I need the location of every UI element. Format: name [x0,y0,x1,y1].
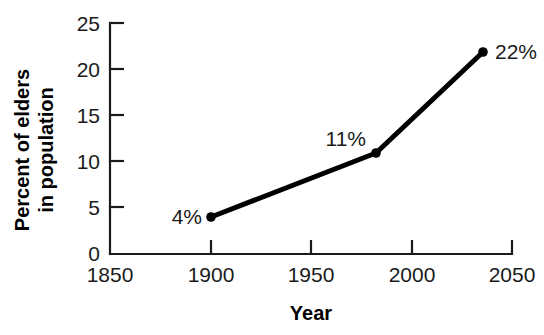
x-tick-label-2050: 2050 [489,263,536,286]
y-tick-label-5: 5 [88,196,100,219]
data-point-1900 [206,212,216,222]
y-tick-label-15: 15 [77,104,100,127]
data-label-11-percent: 11% [326,127,366,150]
x-tick-label-2000: 2000 [389,263,436,286]
x-axis-title: Year [290,302,332,324]
y-tick-label-20: 20 [77,58,100,81]
x-tick-label-1900: 1900 [188,263,235,286]
y-tick-label-25: 25 [77,12,100,35]
data-label-22-percent: 22% [495,40,537,63]
x-tick-label-1950: 1950 [288,263,335,286]
y-tick-label-0: 0 [88,242,100,265]
y-axis-title-line1: Percent of elders [11,69,33,231]
chart-figure: Percent of elders in population 25 20 15… [0,0,544,335]
data-point-2035 [478,47,488,57]
y-tick-label-10: 10 [77,150,100,173]
data-label-4-percent: 4% [172,205,202,228]
data-point-1982 [371,148,381,158]
x-tick-label-1850: 1850 [87,263,134,286]
line-chart: Percent of elders in population 25 20 15… [0,0,544,335]
y-axis-title-line2: in population [35,87,57,213]
